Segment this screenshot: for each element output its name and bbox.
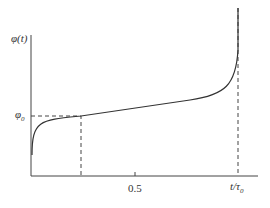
y-label: φ(t) <box>11 32 27 44</box>
chart <box>0 0 270 208</box>
x-label: t/τ0 <box>230 180 244 195</box>
phi0-label: φ0 <box>15 108 25 123</box>
phi-curve <box>32 8 238 155</box>
tick-label: 0.5 <box>128 182 142 194</box>
phi0-guide <box>31 116 81 176</box>
